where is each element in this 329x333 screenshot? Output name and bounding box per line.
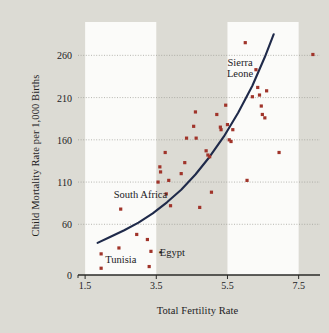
data-point <box>251 95 254 98</box>
data-point <box>164 151 167 154</box>
data-point <box>229 140 232 143</box>
data-point <box>183 161 186 164</box>
y-tick-label: 110 <box>44 177 72 188</box>
data-point <box>185 137 188 140</box>
data-point <box>169 204 172 207</box>
data-point <box>146 238 149 241</box>
data-point <box>195 137 198 140</box>
background-bands <box>85 22 299 275</box>
x-tick-label: 3.5 <box>136 280 176 291</box>
data-point <box>159 170 162 173</box>
x-tick-label: 7.5 <box>279 280 319 291</box>
data-point <box>158 165 161 168</box>
data-point <box>258 93 261 96</box>
annotation-egypt-marker-dot: • <box>159 247 163 259</box>
data-point <box>192 125 195 128</box>
data-point <box>149 250 152 253</box>
y-axis-title: Child Mortality Rate per 1,000 Births <box>30 41 41 271</box>
data-point <box>260 104 263 107</box>
data-point <box>180 172 183 175</box>
data-point <box>208 155 211 158</box>
data-point <box>135 233 138 236</box>
y-tick-label: 0 <box>44 270 72 281</box>
data-point <box>231 128 234 131</box>
data-point <box>224 104 227 107</box>
data-point <box>205 149 208 152</box>
data-point <box>210 191 213 194</box>
data-point <box>261 113 264 116</box>
data-point <box>119 208 122 211</box>
y-tick-label: 260 <box>44 50 72 61</box>
data-point <box>100 267 103 270</box>
data-point <box>219 128 222 131</box>
data-point <box>245 179 248 182</box>
data-point <box>117 246 120 249</box>
data-point <box>100 252 103 255</box>
data-point <box>226 123 229 126</box>
annotation-tunisia: Tunisia <box>105 254 136 266</box>
y-tick-label: 210 <box>44 92 72 103</box>
data-point <box>156 180 159 183</box>
background-band-0 <box>85 22 156 275</box>
data-point <box>148 265 151 268</box>
y-tick-label: 160 <box>44 134 72 145</box>
data-point <box>244 41 247 44</box>
data-point <box>263 116 266 119</box>
annotation-sierra-leone: Sierra Leone <box>227 57 253 80</box>
data-point <box>198 206 201 209</box>
data-point <box>254 68 257 71</box>
x-tick-label: 5.5 <box>207 280 247 291</box>
data-point <box>194 110 197 113</box>
scatter-chart-figure: Child Mortality Rate per 1,000 Births To… <box>0 0 329 333</box>
x-tick-label: 1.5 <box>65 280 105 291</box>
data-point <box>265 89 268 92</box>
annotation-egypt: Egypt <box>160 247 185 259</box>
data-point <box>167 179 170 182</box>
data-point <box>311 53 314 56</box>
data-point <box>215 113 218 116</box>
x-axis-title: Total Fertility Rate <box>75 305 320 316</box>
data-point <box>277 151 280 154</box>
y-tick-label: 60 <box>44 219 72 230</box>
annotation-south-africa: South Africa <box>114 189 167 201</box>
data-point <box>256 86 259 89</box>
